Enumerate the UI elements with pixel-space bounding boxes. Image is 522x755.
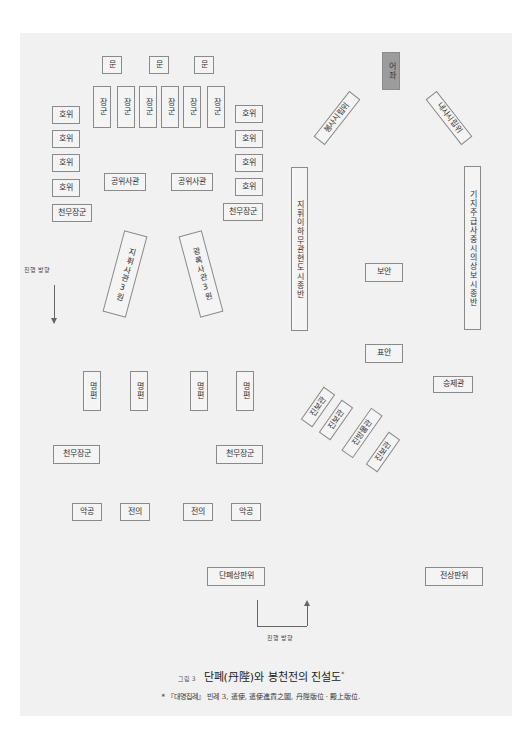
guard-box-left: 호위	[52, 179, 80, 197]
figure-title: 단폐(丹陛)와 봉천전의 진설도	[204, 671, 342, 684]
direction-path-bottom	[257, 600, 258, 626]
general-box: 장군	[117, 86, 135, 128]
guard-box-left: 호위	[52, 106, 80, 124]
guard-box-left: 호위	[52, 154, 80, 172]
gongwi-officer-left: 공위사관	[104, 173, 146, 191]
guard-box-right: 호위	[235, 105, 263, 123]
direction-path-bottom	[307, 604, 308, 626]
footnote-mark: *	[341, 670, 344, 677]
figure-caption: 그림 3단폐(丹陛)와 봉천전의 진설도*	[0, 668, 522, 684]
treasure-table: 보안	[365, 263, 403, 282]
general-box: 장군	[207, 86, 225, 128]
gate-box: 문	[149, 56, 169, 74]
ceremony-officer-right: 전의	[183, 503, 213, 521]
cheonmu-general-lower-left: 천무장군	[53, 445, 100, 464]
general-box: 장군	[161, 86, 179, 128]
guard-box-right: 호위	[235, 178, 263, 196]
gate-box: 문	[102, 56, 122, 74]
guard-box-right: 호위	[235, 130, 263, 148]
myeongpyeon-box: 명편	[130, 371, 148, 411]
arrow-down-icon	[51, 318, 57, 324]
general-box: 장군	[93, 86, 111, 128]
guard-box-left: 호위	[52, 130, 80, 148]
military-attendants-column: 지휘이하무관현도시종반	[291, 167, 308, 331]
myeongpyeon-box: 명편	[190, 371, 208, 411]
direction-label-bottom: 진행 방향	[267, 633, 293, 642]
general-box: 장군	[183, 86, 201, 128]
cheonmu-general-upper-left: 천무장군	[52, 204, 92, 222]
musician-box-left: 악공	[72, 503, 102, 521]
musician-box-right: 악공	[231, 503, 261, 521]
figure-number: 그림 3	[178, 675, 196, 682]
civil-attendants-column: 기지주급사중시의상보시종반	[464, 166, 481, 330]
jeonsang-position: 전상판위	[425, 567, 483, 586]
cheonmu-general-lower-right: 천무장군	[216, 445, 263, 464]
myeongpyeon-box: 명편	[83, 371, 101, 411]
gongwi-officer-right: 공위사관	[171, 173, 213, 191]
figure-footnote: * 『대명집례』 빈례 3, 遣使, 遣使進貢之圖, 丹陛版位 · 殿上版位.	[0, 691, 522, 701]
seungje-officer: 승제관	[433, 376, 473, 393]
cheonmu-general-upper-right: 천무장군	[223, 203, 263, 221]
arrow-up-icon	[304, 600, 310, 606]
myeongpyeon-box: 명편	[236, 371, 254, 411]
guard-box-right: 호위	[235, 154, 263, 172]
ceremony-officer-left: 전의	[120, 503, 150, 521]
memorial-table: 표안	[365, 344, 403, 363]
gate-box: 문	[194, 56, 214, 74]
general-box: 장군	[139, 86, 157, 128]
danpye-position: 단폐상판위	[207, 567, 265, 586]
throne-box: 어좌	[382, 52, 400, 90]
direction-path-bottom	[257, 626, 307, 627]
direction-label-left: 진행 방향	[24, 265, 50, 274]
